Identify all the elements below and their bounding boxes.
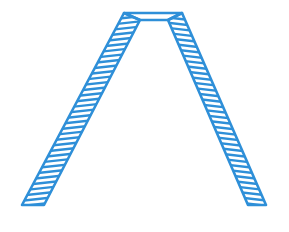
right-leg: [100, 0, 289, 208]
left-leg: [0, 0, 200, 208]
a-frame-diagram: [0, 0, 289, 232]
